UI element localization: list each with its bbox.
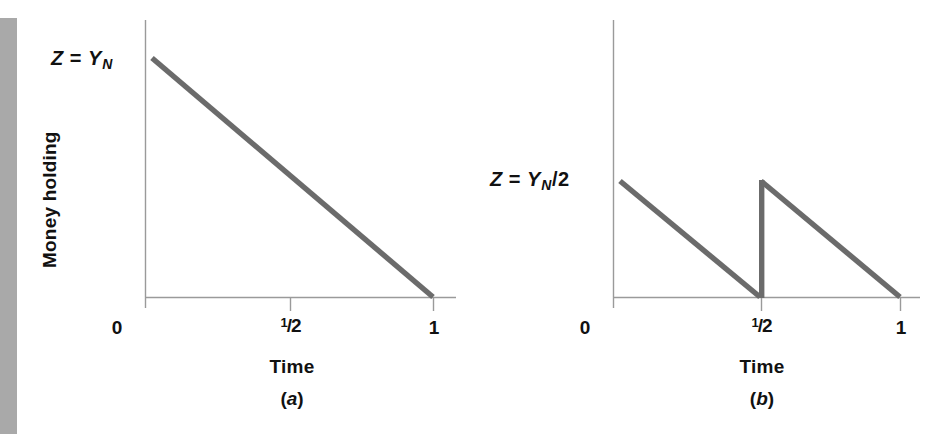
panel-a-z-variable: Z: [51, 47, 64, 69]
panel-b-tick-label-one: 1: [889, 318, 913, 337]
panel-a-z-label: Z = YN: [51, 48, 113, 71]
panel-b-z-suffix: /2: [552, 168, 570, 190]
panel-b-tick-label-half: 1/2: [744, 316, 780, 335]
panel-a-tick-label-half: 1/2: [273, 316, 309, 335]
y-axis-title: Money holding: [40, 131, 59, 268]
panel-b-x-axis-title: Time: [720, 357, 804, 376]
panel-a-caption-letter: a: [287, 388, 298, 409]
panel-b-z-equals: =: [503, 168, 527, 190]
panel-b-caption: (b): [720, 389, 804, 408]
panel-a-x-axis-title: Time: [250, 357, 334, 376]
panel-b-tick-label-0: 0: [573, 318, 597, 337]
panel-b-data-segment-2: [761, 181, 900, 297]
panel-b-caption-close: ): [768, 388, 774, 409]
panel-b-caption-letter: b: [756, 388, 768, 409]
panel-a-tick-label-0: 0: [105, 318, 129, 337]
panel-b-data-segment-1: [620, 181, 760, 297]
panel-a-z-equals: =: [64, 47, 88, 69]
panel-a-frac-denominator: 2: [291, 315, 302, 336]
panel-b-z-value: Y: [527, 168, 541, 190]
panel-a-caption-close: ): [297, 388, 303, 409]
panel-a-tick-label-one: 1: [422, 318, 446, 337]
panel-a-data-line: [152, 58, 433, 297]
page-edge-bar: [0, 18, 17, 434]
panel-a-z-subscript: N: [102, 56, 113, 72]
panel-b-z-variable: Z: [490, 168, 503, 190]
panel-b-z-subscript: N: [541, 177, 552, 193]
panel-b-z-label: Z = YN/2: [490, 169, 570, 192]
panel-a-caption: (a): [250, 389, 334, 408]
panel-a-z-value: Y: [88, 47, 102, 69]
figure-canvas: Money holding Z = YN 0 1/2 1 Time (a): [0, 0, 940, 434]
panel-b-frac-denominator: 2: [762, 315, 773, 336]
